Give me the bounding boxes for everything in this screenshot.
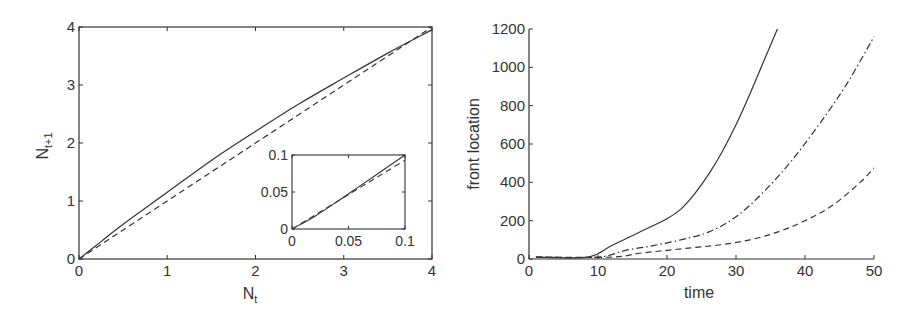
x-tick-label: 50 xyxy=(866,262,883,279)
x-tick-label: 3 xyxy=(340,262,348,279)
x-tick-label: 2 xyxy=(251,262,259,279)
right-y-axis-label: front location xyxy=(465,98,482,190)
series-dash-dot-line xyxy=(536,37,874,258)
y-tick-label: 600 xyxy=(500,135,525,152)
y-tick-label: 1000 xyxy=(492,58,525,75)
right-axis-ticks: 01020304050020040060080010001200 xyxy=(492,20,883,279)
x-tick-label: 10 xyxy=(590,262,607,279)
x-tick-label: 30 xyxy=(728,262,745,279)
x-tick-label: 0 xyxy=(525,262,533,279)
y-tick-label: 0.1 xyxy=(269,147,289,163)
x-tick-label: 0.1 xyxy=(395,233,415,249)
y-tick-label: 4 xyxy=(67,18,75,35)
x-tick-label: 4 xyxy=(428,262,436,279)
left-y-axis-label: Nt+1 xyxy=(34,132,54,159)
figure: 0123401234 Nt Nt+1 00.050.100.050.1 0102… xyxy=(0,0,919,317)
y-tick-label: 200 xyxy=(500,212,525,229)
y-tick-label: 400 xyxy=(500,173,525,190)
left-x-axis-label: Nt xyxy=(243,285,258,305)
y-tick-label: 0 xyxy=(67,250,75,267)
x-tick-label: 0 xyxy=(75,262,83,279)
x-tick-label: 0 xyxy=(288,233,296,249)
series-dashed-line xyxy=(536,168,874,257)
right-plot-lines xyxy=(536,29,874,258)
left-chart-map: 0123401234 Nt Nt+1 00.050.100.050.1 xyxy=(34,18,436,305)
y-tick-label: 0.05 xyxy=(261,184,288,200)
right-chart-front-location: 01020304050020040060080010001200 time fr… xyxy=(465,20,882,301)
x-tick-label: 1 xyxy=(163,262,171,279)
y-tick-label: 0 xyxy=(517,250,525,267)
series-solid-line xyxy=(536,29,778,258)
x-tick-label: 40 xyxy=(797,262,814,279)
y-tick-label: 1 xyxy=(67,192,75,209)
y-tick-label: 1200 xyxy=(492,20,525,37)
y-tick-label: 800 xyxy=(500,97,525,114)
y-tick-label: 0 xyxy=(280,221,288,237)
y-tick-label: 2 xyxy=(67,134,75,151)
inset-plot: 00.050.100.050.1 xyxy=(261,147,415,249)
y-tick-label: 3 xyxy=(67,76,75,93)
x-tick-label: 20 xyxy=(659,262,676,279)
right-x-axis-label: time xyxy=(684,284,714,301)
x-tick-label: 0.05 xyxy=(335,233,362,249)
